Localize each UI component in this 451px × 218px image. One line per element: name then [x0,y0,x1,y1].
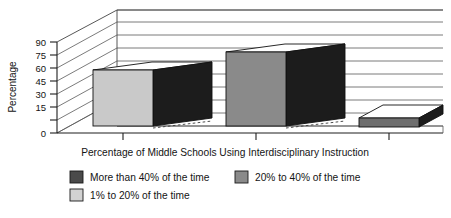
x-axis-ticks [123,133,389,140]
y-tick-label-30: 30 [35,89,46,100]
legend-swatch-20-to-40-icon [235,171,248,183]
left-wall-gridline-1 [57,22,117,55]
bar-2-front-face [226,52,286,126]
legend-swatch-1-to-20-icon [70,189,83,201]
bar-group-3[interactable] [359,105,443,127]
y-tick-label-75: 75 [35,50,46,61]
bar-chart-3d: 90 75 60 45 30 15 0 Percentage [0,0,451,218]
bar-3-front-face [359,118,419,127]
bar-1-front-face [93,70,153,126]
left-wall-gridline-2 [57,35,117,68]
y-tick-label-90: 90 [35,37,46,48]
y-tick-label-45: 45 [35,76,46,87]
bar-1-side-face [153,62,212,126]
legend-item-more-than-40[interactable]: More than 40% of the time [70,171,210,183]
y-tick-label-0: 0 [41,128,46,139]
legend-label-1-to-20: 1% to 20% of the time [90,190,190,201]
left-wall-top-edge [57,10,117,42]
legend-item-1-to-20[interactable]: 1% to 20% of the time [70,189,190,201]
legend-label-20-to-40: 20% to 40% of the time [255,172,361,183]
y-axis: 90 75 60 45 30 15 0 Percentage [7,37,57,139]
y-tick-label-60: 60 [35,63,46,74]
chart-legend: More than 40% of the time 20% to 40% of … [70,171,361,201]
chart-container: 90 75 60 45 30 15 0 Percentage [0,0,451,218]
bar-group-2[interactable] [226,44,345,126]
bar-2-side-face [286,44,345,126]
y-tick-label-15: 15 [35,102,46,113]
legend-item-20-to-40[interactable]: 20% to 40% of the time [235,171,361,183]
y-axis-title: Percentage [7,61,18,113]
legend-swatch-more-than-40-icon [70,171,83,183]
x-axis-caption: Percentage of Middle Schools Using Inter… [81,147,369,158]
bar-group-1[interactable] [93,62,212,126]
legend-label-more-than-40: More than 40% of the time [90,172,210,183]
